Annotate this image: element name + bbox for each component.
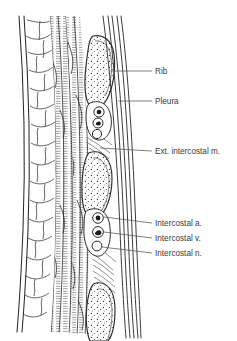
- intercostal-artery-middle: [93, 213, 104, 224]
- label-rib: Rib: [155, 67, 168, 76]
- intercostal-vein-middle: [93, 227, 104, 238]
- label-ext-intercostal-m: Ext. intercostal m.: [155, 147, 220, 156]
- label-pleura: Pleura: [155, 97, 179, 106]
- label-intercostal-a: Intercostal a.: [155, 219, 202, 228]
- label-intercostal-v: Intercostal v.: [155, 234, 201, 243]
- intercostal-artery-upper: [94, 107, 104, 117]
- figure-background: [0, 0, 237, 341]
- rib-lower: [86, 283, 115, 341]
- neurovascular-bundle-upper: [86, 102, 111, 140]
- intercostal-vein-upper: [93, 118, 103, 128]
- thoracic-wall-figure: Rib Pleura Ext. intercostal m. Intercost…: [0, 0, 237, 341]
- intercostal-nerve-middle: [92, 241, 102, 251]
- anatomy-illustration: Rib Pleura Ext. intercostal m. Intercost…: [0, 0, 237, 341]
- intercostal-nerve-upper: [92, 129, 101, 138]
- label-intercostal-n: Intercostal n.: [155, 249, 202, 258]
